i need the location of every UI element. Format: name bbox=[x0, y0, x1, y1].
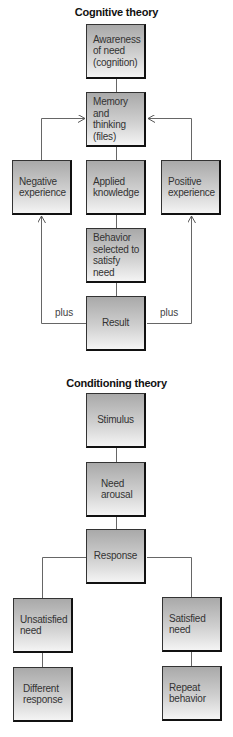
memory-and-thinking-box: Memory and thinking (files) bbox=[86, 92, 146, 147]
plus-label-left: plus bbox=[55, 307, 73, 318]
box-label: Repeat behavior bbox=[163, 682, 220, 705]
different-response-box: Different response bbox=[13, 667, 73, 722]
unsatisfied-need-box: Unsatisfied need bbox=[13, 598, 73, 653]
box-label: Need arousal bbox=[87, 478, 144, 501]
box-label: Negative experience bbox=[13, 176, 70, 199]
box-label: Result bbox=[87, 317, 144, 329]
box-label: Different response bbox=[14, 683, 71, 706]
stimulus-box: Stimulus bbox=[86, 393, 146, 448]
conditioning-theory-title: Conditioning theory bbox=[0, 377, 233, 389]
box-label: Applied knowledge bbox=[87, 176, 144, 199]
box-label: Behavior selected to satisfy need bbox=[87, 232, 144, 278]
box-label: Response bbox=[87, 550, 144, 562]
awareness-of-need-box: Awareness of need (cognition) bbox=[86, 24, 146, 79]
box-label: Satisfied need bbox=[163, 613, 220, 636]
cognitive-theory-title: Cognitive theory bbox=[0, 6, 233, 18]
negative-experience-box: Negative experience bbox=[12, 160, 72, 215]
behavior-selected-box: Behavior selected to satisfy need bbox=[86, 228, 146, 283]
box-label: Positive experience bbox=[162, 176, 219, 199]
positive-experience-box: Positive experience bbox=[161, 160, 221, 215]
satisfied-need-box: Satisfied need bbox=[162, 597, 222, 652]
need-arousal-box: Need arousal bbox=[86, 462, 146, 517]
box-label: Awareness of need (cognition) bbox=[87, 34, 144, 69]
box-label: Memory and thinking (files) bbox=[87, 96, 144, 142]
applied-knowledge-box: Applied knowledge bbox=[86, 160, 146, 215]
repeat-behavior-box: Repeat behavior bbox=[162, 666, 222, 721]
result-box: Result bbox=[86, 296, 146, 351]
plus-label-right: plus bbox=[160, 307, 178, 318]
box-label: Stimulus bbox=[87, 414, 144, 426]
response-box: Response bbox=[86, 529, 146, 584]
box-label: Unsatisfied need bbox=[14, 614, 71, 637]
